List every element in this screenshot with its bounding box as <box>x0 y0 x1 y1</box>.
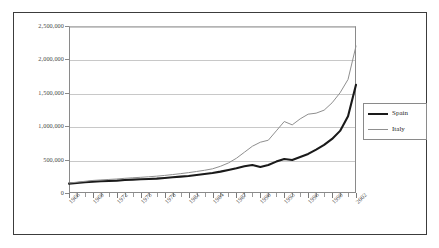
x-tick-label: 1984 <box>211 191 225 205</box>
x-tick-label: 1978 <box>163 191 177 205</box>
legend-swatch-italy <box>368 129 388 130</box>
legend-label-spain: Spain <box>392 107 408 119</box>
x-tick-label: 1981 <box>187 191 201 205</box>
chart-legend: Spain Italy <box>363 103 427 140</box>
x-tick-label: 1969 <box>91 191 105 205</box>
x-tick-label: 2002 <box>354 191 368 205</box>
legend-label-italy: Italy <box>392 123 405 135</box>
legend-item-italy: Italy <box>368 123 424 135</box>
x-tick-label: 1993 <box>282 191 296 205</box>
x-tick-label: 1975 <box>139 191 153 205</box>
x-tick-label: 1999 <box>330 191 344 205</box>
x-tick-label: 1990 <box>258 191 272 205</box>
x-tick-label: 1966 <box>67 191 81 205</box>
x-tick-label: 1987 <box>234 191 248 205</box>
legend-swatch-spain <box>368 113 388 115</box>
x-tick-label: 1972 <box>115 191 129 205</box>
chart-figure: 2,500,0002,000,0001,500,0001,000,000500,… <box>0 0 439 248</box>
legend-item-spain: Spain <box>368 107 424 119</box>
x-tick-label: 1996 <box>306 191 320 205</box>
